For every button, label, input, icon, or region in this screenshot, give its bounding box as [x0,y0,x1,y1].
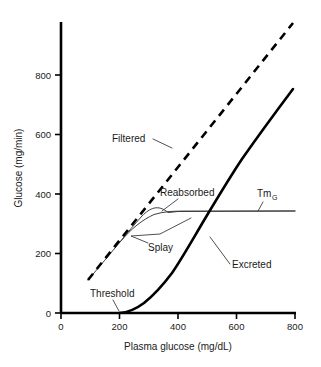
x-tick-label-600: 600 [229,321,245,332]
tmg-leader-line [258,202,263,211]
y-tick-label-800: 800 [35,70,51,81]
x-axis-title: Plasma glucose (mg/dL) [124,341,232,352]
excreted-line [120,89,294,313]
excreted-leader-line [210,237,230,264]
y-tick-label-600: 600 [35,129,51,140]
threshold-leader-line [113,300,119,311]
x-tick-label-200: 200 [112,321,128,332]
y-tick-label-0: 0 [46,308,51,319]
y-tick-labels: 0 200 400 600 800 [35,70,51,319]
x-tick-labels: 0 200 400 600 800 [58,321,303,332]
y-tick-label-400: 400 [35,189,51,200]
tmg-label: Tm [257,188,271,199]
filtered-leader-line [153,139,172,148]
chart-canvas: 0 200 400 600 800 0 200 400 600 800 Plas… [0,0,321,367]
threshold-label: Threshold [90,288,134,299]
x-tick-label-400: 400 [170,321,186,332]
tmg-label-group: Tm G [257,188,277,201]
filtered-label: Filtered [112,133,145,144]
x-tick-label-0: 0 [58,321,63,332]
splay-label: Splay [148,242,173,253]
x-tick-label-800: 800 [287,321,303,332]
tmg-subscript: G [272,194,277,201]
splay-leader-line [131,218,191,243]
excreted-label: Excreted [232,259,271,270]
y-tick-label-200: 200 [35,248,51,259]
glucose-titration-chart: 0 200 400 600 800 0 200 400 600 800 Plas… [0,0,321,367]
reabsorbed-label: Reabsorbed [160,187,214,198]
y-axis-title: Glucose (mg/min) [13,129,24,208]
reabsorbed-leader-line [162,199,178,211]
